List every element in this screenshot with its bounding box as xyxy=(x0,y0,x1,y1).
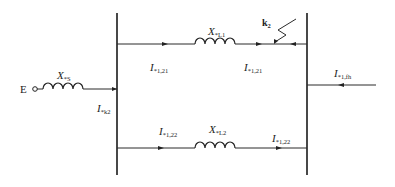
top-mid-current-arrow-icon xyxy=(256,42,262,46)
source-terminal-icon xyxy=(33,87,38,92)
top-left-current-arrow-icon xyxy=(162,42,168,46)
feeder-current-label: I*1,fh xyxy=(333,67,352,80)
fault-lightning-icon xyxy=(275,19,296,42)
bottom-left-current-label: I*1,22 xyxy=(158,125,177,138)
bottom-branch-reactance-label: X*L2 xyxy=(208,123,226,136)
source-reactance-icon xyxy=(43,83,83,89)
source-label: E xyxy=(20,83,27,95)
top-right-current-arrow-icon xyxy=(290,42,296,46)
bottom-branch-reactance-icon xyxy=(195,142,235,148)
circuit-diagram: E X*S I*k2 X*L1 I*1,21 I*1,21 k2 I*1,fh … xyxy=(0,0,395,187)
source-reactance-label: X*S xyxy=(56,69,71,82)
bottom-right-current-label: I*1,22 xyxy=(271,132,290,145)
top-right-current-label: I*1,21 xyxy=(243,61,262,74)
bottom-left-current-arrow-icon xyxy=(158,146,164,150)
top-left-current-label: I*1,21 xyxy=(149,61,168,74)
fault-label: k2 xyxy=(262,17,271,29)
source-current-label: I*k2 xyxy=(96,102,110,115)
top-branch-reactance-label: X*L1 xyxy=(207,25,225,38)
top-branch-reactance-icon xyxy=(195,38,235,44)
feeder-current-arrow-icon xyxy=(338,83,344,87)
bottom-right-current-arrow-icon xyxy=(276,146,282,150)
fault-arrow-icon xyxy=(274,39,278,44)
